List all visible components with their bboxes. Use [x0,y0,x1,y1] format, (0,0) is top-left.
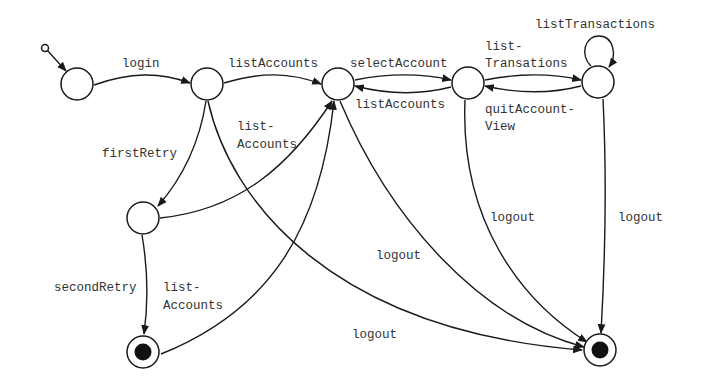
label-quitAccountView-1: quitAccount- [485,103,575,117]
initial-state-marker [42,45,49,52]
label-logout-accounts: logout [376,249,421,263]
state-retry [127,202,159,234]
state-account [452,67,484,99]
label-final-listAccounts-2: Accounts [163,299,223,313]
label-listAccounts: listAccounts [228,57,318,71]
edge-quitAccountView [485,86,581,92]
state-logged-in [191,68,223,100]
label-firstRetry: firstRetry [102,147,178,161]
edge-retry-listAccounts [160,101,332,218]
label-listTransations-1: list- [485,40,523,54]
edge-secondRetry [142,235,147,334]
label-listAccounts-back: listAccounts [355,98,445,112]
state-diagram: login listAccounts selectAccount listAcc… [0,0,704,388]
state-start [61,68,93,100]
edge-logout-accounts [340,101,584,347]
edge-initial [47,50,66,71]
label-quitAccountView-2: View [485,120,516,134]
final-state-right [584,334,616,366]
state-transactions [582,66,614,98]
label-login: login [122,57,160,71]
edge-listAccounts [224,75,321,84]
edge-logout-transactions [601,99,605,333]
edge-selectAccount [355,75,451,80]
label-logout-account: logout [490,211,535,225]
state-accounts [322,68,354,100]
label-logout-transactions: logout [618,211,663,225]
final-state-left [127,336,159,368]
label-logout-loggedIn: logout [352,328,397,342]
edge-login [94,75,190,85]
edge-listTransations [485,75,581,80]
label-final-listAccounts-1: list- [163,281,201,295]
label-listTransactions-loop: listTransactions [535,18,655,32]
label-listTransations-2: Transations [485,57,568,71]
edge-listTransactions-loop [585,36,614,67]
edge-listAccounts-back [355,86,451,93]
label-retry-listAccounts-1: list- [237,120,275,134]
label-retry-listAccounts-2: Accounts [237,138,297,152]
label-selectAccount: selectAccount [350,57,448,71]
label-secondRetry: secondRetry [54,281,137,295]
